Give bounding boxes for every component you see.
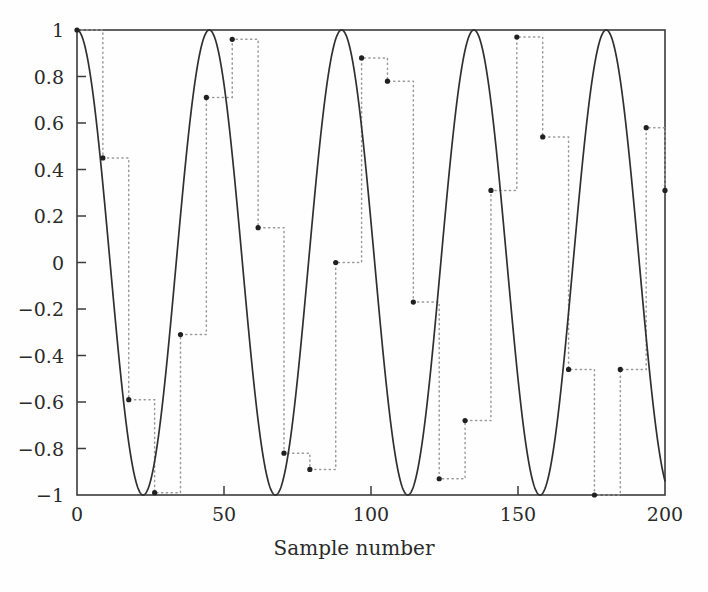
sample-point-marker <box>230 37 235 42</box>
sample-markers <box>74 27 667 497</box>
plot-frame <box>77 30 665 495</box>
sample-point-marker <box>385 79 390 84</box>
y-tick-label: −0.8 <box>0 438 64 460</box>
x-tick-label: 100 <box>353 503 389 525</box>
hold-staircase-path <box>77 30 665 495</box>
y-tick-label: −0.2 <box>0 298 64 320</box>
plot-border <box>77 30 665 495</box>
x-tick-label: 200 <box>647 503 683 525</box>
sample-point-marker <box>359 55 364 60</box>
chart-figure: −1−0.8−0.6−0.4−0.200.20.40.60.81 0501001… <box>0 0 708 592</box>
sample-point-marker <box>152 490 157 495</box>
sample-point-marker <box>307 467 312 472</box>
sample-point-marker <box>411 299 416 304</box>
y-tick-label: 0.4 <box>0 159 64 181</box>
sample-point-marker <box>437 476 442 481</box>
sample-point-marker <box>592 492 597 497</box>
sample-point-marker <box>281 451 286 456</box>
x-tick-label: 150 <box>500 503 536 525</box>
sample-point-marker <box>204 95 209 100</box>
sample-point-marker <box>540 134 545 139</box>
sample-point-marker <box>514 34 519 39</box>
x-tick-label: 50 <box>212 503 236 525</box>
x-axis-ticks <box>224 486 518 495</box>
sample-point-marker <box>644 125 649 130</box>
x-tick-label: 0 <box>71 503 83 525</box>
y-tick-label: 0.2 <box>0 205 64 227</box>
y-tick-label: −1 <box>0 484 64 506</box>
sampled-hold-series <box>77 30 665 495</box>
y-tick-label: 0.6 <box>0 112 64 134</box>
sample-point-marker <box>74 27 79 32</box>
y-tick-label: −0.4 <box>0 345 64 367</box>
y-tick-label: 0 <box>0 252 64 274</box>
x-axis-title: Sample number <box>274 536 435 560</box>
sample-point-marker <box>662 188 667 193</box>
sample-point-marker <box>462 418 467 423</box>
sample-point-marker <box>256 225 261 230</box>
sample-point-marker <box>126 397 131 402</box>
y-axis-ticks <box>77 77 86 449</box>
sample-point-marker <box>566 367 571 372</box>
sample-point-marker <box>333 260 338 265</box>
sample-point-marker <box>100 155 105 160</box>
y-tick-label: 1 <box>0 19 64 41</box>
y-tick-label: 0.8 <box>0 66 64 88</box>
y-tick-label: −0.6 <box>0 391 64 413</box>
continuous-sinusoid-series <box>77 30 665 495</box>
sample-point-marker <box>488 188 493 193</box>
sample-point-marker <box>178 332 183 337</box>
sinusoid-path <box>77 30 665 495</box>
sample-point-marker <box>618 367 623 372</box>
